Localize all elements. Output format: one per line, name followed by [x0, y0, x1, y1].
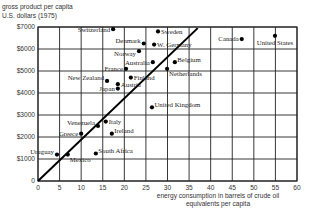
scatter-chart: gross product per capita U.S. dollars (1… [0, 0, 312, 216]
x-tick-label: 40 [207, 184, 215, 191]
x-tick-label: 15 [99, 184, 107, 191]
data-label: Ireland [114, 127, 134, 134]
data-point [152, 43, 156, 47]
data-point [116, 87, 120, 91]
data-point [94, 151, 98, 155]
data-label: Uruguay [30, 148, 54, 155]
y-tick-label: $4000 [17, 89, 36, 96]
data-label: Canada [218, 35, 238, 42]
x-tick-label: 35 [185, 184, 193, 191]
data-point [124, 67, 128, 71]
data-point [110, 132, 114, 136]
data-point [116, 82, 120, 86]
data-point [79, 132, 83, 136]
x-tick-label: 20 [121, 184, 129, 191]
data-label: New Zealand [68, 74, 105, 81]
x-tick-label: 25 [142, 184, 150, 191]
data-point [240, 37, 244, 41]
data-point [156, 29, 160, 33]
data-label: Mexico [70, 156, 91, 163]
data-label: Netherlands [169, 70, 202, 77]
data-label: Japan [99, 85, 115, 92]
x-tick-label: 30 [164, 184, 172, 191]
x-axis-title-line-2: equivalents per capita [186, 200, 250, 208]
x-tick-label: 5 [58, 184, 62, 191]
data-label: Belgium [177, 56, 201, 63]
y-tick-label: $6000 [17, 45, 36, 52]
data-label: South Africa [98, 147, 133, 154]
data-point [173, 60, 177, 64]
data-label: Sweden [161, 28, 183, 35]
data-point [96, 124, 100, 128]
data-label: Greece [59, 130, 78, 137]
data-point [150, 105, 154, 109]
data-label: Austria [121, 81, 141, 88]
data-point [137, 49, 141, 53]
data-point [142, 41, 146, 45]
y-tick-label: $5000 [17, 67, 36, 74]
x-axis-title-line-1: energy consumption in barrels of crude o… [157, 192, 280, 200]
data-label: Switzerland [78, 26, 111, 33]
data-point [55, 153, 59, 157]
x-tick-label: 0 [36, 184, 40, 191]
x-tick-label: 45 [229, 184, 237, 191]
data-label: United Kingdom [154, 101, 201, 108]
y-axis-title: gross product per capita U.S. dollars (1… [2, 3, 73, 20]
data-label: W. Germany [157, 41, 192, 48]
data-label: Italy [109, 118, 122, 125]
x-tick-labels: 051015202530354045505560 [36, 184, 301, 191]
data-point [129, 76, 133, 80]
y-tick-label: $7000 [17, 23, 36, 30]
x-tick-label: 60 [293, 184, 301, 191]
x-tick-label: 50 [250, 184, 258, 191]
data-point [104, 120, 108, 124]
x-axis-title: energy consumption in barrels of crude o… [157, 192, 280, 208]
data-point [151, 60, 155, 64]
y-tick-label: 0 [31, 177, 35, 184]
data-label: France [105, 65, 124, 72]
data-point [273, 34, 277, 38]
data-label: Denmark [115, 37, 141, 44]
data-label: Australia [125, 59, 150, 66]
data-label: Venezuela [67, 119, 95, 126]
y-axis-title-line-2: U.S. dollars (1975) [2, 12, 57, 20]
data-label: United States [257, 39, 294, 46]
y-tick-label: $2000 [17, 133, 36, 140]
data-point [111, 27, 115, 31]
data-point [105, 79, 109, 83]
y-tick-label: $1000 [17, 155, 36, 162]
y-tick-label: $3000 [17, 111, 36, 118]
y-axis-title-line-1: gross product per capita [2, 3, 73, 11]
data-label: Norway [114, 50, 136, 57]
x-tick-label: 55 [272, 184, 280, 191]
y-tick-labels: 0$1000$2000$3000$4000$5000$6000$7000 [17, 23, 36, 184]
x-tick-label: 10 [77, 184, 85, 191]
